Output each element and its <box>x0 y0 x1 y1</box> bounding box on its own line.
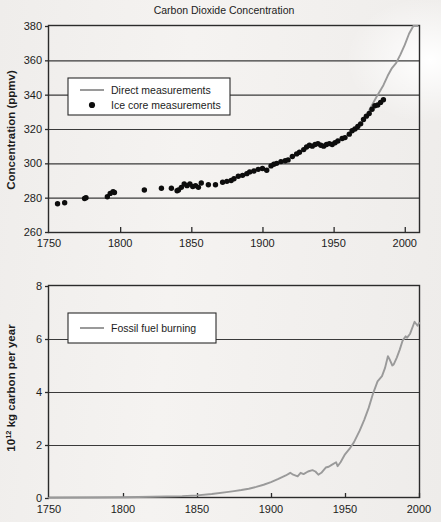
co2-chart-svg: Carbon Dioxide Concentration Concentrati… <box>0 0 441 258</box>
y-axis-title: Concentration (ppmv) <box>5 70 17 190</box>
data-point <box>206 182 211 187</box>
y-tick-labels: 260280300320340360380 <box>24 20 42 238</box>
fossil-fuel-chart: 1012 kg carbon per year 02468 1750180018… <box>0 258 441 522</box>
x-tick-label: 1950 <box>321 237 345 249</box>
data-point <box>83 195 88 200</box>
y-tick-label: 280 <box>24 192 42 204</box>
fossil-chart-svg: 1012 kg carbon per year 02468 1750180018… <box>0 258 441 522</box>
y-axis-title: 1012 kg carbon per year <box>4 324 17 452</box>
legend-label: Direct measurements <box>111 84 211 96</box>
data-point <box>159 186 164 191</box>
y-tick-label: 380 <box>24 20 42 32</box>
chart-title: Carbon Dioxide Concentration <box>154 4 295 16</box>
data-point <box>285 157 290 162</box>
legend-dot-swatch <box>89 102 95 108</box>
data-series-group <box>55 26 418 206</box>
legend[interactable]: Fossil fuel burning <box>68 313 216 343</box>
y-tick-label: 300 <box>24 157 42 169</box>
series-line <box>369 26 417 110</box>
data-point <box>213 182 218 187</box>
gridlines <box>49 340 419 446</box>
x-tick-label: 1800 <box>108 237 132 249</box>
data-point <box>264 168 269 173</box>
x-tick-label: 1750 <box>37 237 61 249</box>
x-tick-label: 1900 <box>250 237 274 249</box>
y-tick-label: 360 <box>24 54 42 66</box>
x-tick-labels: 175018001850190019502000 <box>37 503 431 515</box>
y-tick-label: 2 <box>36 439 42 451</box>
x-tick-label: 1950 <box>333 503 357 515</box>
data-point <box>199 180 204 185</box>
x-tick-label: 2000 <box>407 503 431 515</box>
data-point <box>342 135 347 140</box>
x-tick-label: 1900 <box>259 503 283 515</box>
y-tick-label: 340 <box>24 89 42 101</box>
y-tick-label: 4 <box>36 386 42 398</box>
legend-label: Ice core measurements <box>111 99 221 111</box>
series-line <box>49 322 419 498</box>
data-point <box>142 187 147 192</box>
x-tick-label: 2000 <box>393 237 417 249</box>
legend-label: Fossil fuel burning <box>111 322 196 334</box>
data-point <box>62 200 67 205</box>
x-tick-label: 1800 <box>111 503 135 515</box>
x-tick-label: 1850 <box>185 503 209 515</box>
y-tick-label: 8 <box>36 280 42 292</box>
x-tick-label: 1850 <box>179 237 203 249</box>
y-tick-label: 320 <box>24 123 42 135</box>
x-tick-label: 1750 <box>37 503 61 515</box>
data-point <box>112 190 117 195</box>
figure-page: Carbon Dioxide Concentration Concentrati… <box>0 0 441 522</box>
co2-concentration-chart: Carbon Dioxide Concentration Concentrati… <box>0 0 441 258</box>
legend[interactable]: Direct measurementsIce core measurements <box>68 78 230 115</box>
data-point <box>381 97 386 102</box>
data-point <box>169 186 174 191</box>
y-tick-label: 6 <box>36 333 42 345</box>
data-series-group <box>49 322 419 498</box>
y-tick-labels: 02468 <box>36 280 42 504</box>
x-tick-labels: 175018001850190019502000 <box>37 237 417 249</box>
data-point <box>55 201 60 206</box>
